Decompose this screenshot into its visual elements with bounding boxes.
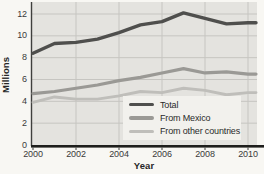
legend-line-swatch — [129, 130, 154, 134]
y-tick-label: 12 — [1, 9, 27, 20]
legend-item-from-other-countries: From other countries — [129, 126, 241, 136]
legend-item-from-mexico: From Mexico — [129, 113, 241, 123]
legend-line-swatch — [129, 116, 154, 120]
x-tick-label: 2006 — [145, 149, 179, 160]
legend-label: Total — [160, 100, 178, 110]
x-tick-label: 2002 — [59, 149, 93, 160]
y-tick-label: 2 — [1, 118, 27, 129]
x-tick-label: 2010 — [231, 149, 264, 160]
x-tick-label: 2004 — [102, 149, 136, 160]
immigration-line-chart: 024681012 200020022004200620082010 Milli… — [0, 0, 264, 174]
x-axis-title: Year — [31, 160, 257, 171]
plot-canvas — [0, 0, 264, 174]
y-axis-title: Millions — [0, 45, 12, 105]
legend: TotalFrom MexicoFrom other countries — [123, 96, 241, 140]
x-axis-baseline — [31, 145, 264, 148]
legend-line-swatch — [129, 103, 154, 107]
x-tick-label: 2000 — [16, 149, 50, 160]
legend-item-total: Total — [129, 100, 241, 110]
legend-label: From Mexico — [160, 113, 210, 123]
y-tick-label: 10 — [1, 30, 27, 41]
x-tick-label: 2008 — [188, 149, 222, 160]
legend-label: From other countries — [160, 126, 240, 136]
